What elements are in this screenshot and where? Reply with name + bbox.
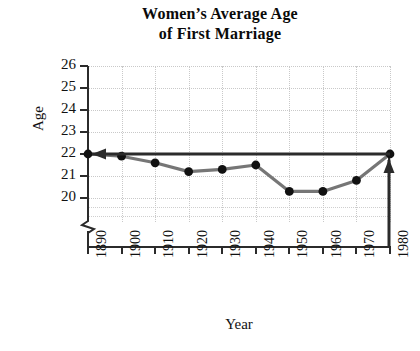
x-axis-tick-label: 1970 — [362, 212, 378, 258]
x-axis-tick-label: 1920 — [195, 212, 211, 258]
x-axis-tick — [255, 246, 257, 254]
chart-figure: Women’s Average Age of First Marriage Ag… — [0, 0, 420, 351]
gridline-horizontal — [88, 66, 390, 67]
x-axis-tick-label: 1890 — [94, 212, 110, 258]
y-axis-tick — [80, 197, 88, 199]
x-axis-title: Year — [88, 316, 390, 333]
x-axis-tick-label: 1900 — [128, 212, 144, 258]
y-axis-tick-label: 21 — [30, 166, 76, 183]
gridline-horizontal — [88, 132, 390, 133]
x-axis-tick — [87, 246, 89, 254]
y-axis-tick-label: 23 — [30, 122, 76, 139]
chart-title: Women’s Average Age of First Marriage — [60, 4, 380, 44]
y-axis-tick — [80, 153, 88, 155]
plot-area — [88, 66, 390, 221]
gridline-vertical — [323, 66, 324, 222]
y-axis-tick — [80, 87, 88, 89]
x-axis-tick — [154, 246, 156, 254]
gridline-vertical — [256, 66, 257, 222]
x-axis-tick-label: 1940 — [262, 212, 278, 258]
gridline-horizontal — [88, 110, 390, 111]
gridline-vertical — [189, 66, 190, 222]
x-axis-tick-label: 1930 — [228, 212, 244, 258]
chart-title-line-2: of First Marriage — [60, 24, 380, 44]
x-axis-tick-label: 1960 — [329, 212, 345, 258]
y-axis-tick-label: 24 — [30, 100, 76, 117]
x-axis-tick-label: 1910 — [161, 212, 177, 258]
y-axis-tick-label: 20 — [30, 188, 76, 205]
gridline-horizontal — [88, 198, 390, 199]
gridline-vertical — [289, 66, 290, 222]
x-axis-tick-label: 1980 — [396, 212, 412, 258]
gridline-vertical — [222, 66, 223, 222]
gridline-horizontal — [88, 154, 390, 155]
y-axis-tick-label: 22 — [30, 144, 76, 161]
gridline-horizontal — [88, 207, 390, 208]
chart-title-line-1: Women’s Average Age — [60, 4, 380, 24]
y-axis-tick-label: 26 — [30, 56, 76, 73]
gridline-vertical — [390, 66, 391, 222]
x-axis-tick — [355, 246, 357, 254]
y-axis-tick — [80, 131, 88, 133]
y-axis-tick — [80, 65, 88, 67]
y-axis-tick — [80, 175, 88, 177]
x-axis-tick — [188, 246, 190, 254]
right-axis-spine — [388, 150, 390, 248]
gridline-vertical — [356, 66, 357, 222]
x-axis-tick — [288, 246, 290, 254]
gridline-vertical — [122, 66, 123, 222]
x-axis-tick — [121, 246, 123, 254]
x-axis-tick — [389, 246, 391, 254]
x-axis-tick — [322, 246, 324, 254]
y-axis-tick — [80, 109, 88, 111]
x-axis-tick-label: 1950 — [295, 212, 311, 258]
x-axis-tick — [221, 246, 223, 254]
y-axis-tick-label: 25 — [30, 78, 76, 95]
gridline-horizontal — [88, 176, 390, 177]
gridline-vertical — [155, 66, 156, 222]
gridline-horizontal — [88, 88, 390, 89]
